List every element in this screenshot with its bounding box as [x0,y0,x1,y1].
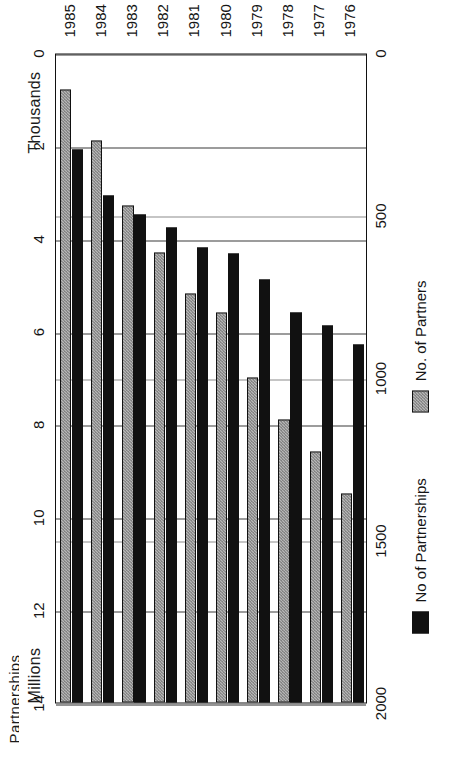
bar-partners-1982 [154,252,165,702]
bar-partners-1985 [60,89,71,702]
tick-top-12: 12 [30,588,47,632]
tick-top-6: 6 [30,310,47,354]
bar-partners-1977 [310,451,321,702]
gridline-bottom-2000 [56,704,366,705]
tick-top-2: 2 [30,124,47,168]
bars-layer [56,54,366,702]
chart-legend: No of Partnerships No. of Partners [412,280,429,633]
chart-page: Partnerships Millions Thousands 14121086… [0,0,470,761]
tick-bottom-500: 500 [372,194,389,238]
category-label-1985: 1985 [61,0,78,37]
legend-label-partnerships: No of Partnerships [412,478,429,602]
category-label-1981: 1981 [185,0,202,37]
bar-partners-1980 [216,312,227,702]
bar-partnerships-1979 [259,280,270,703]
chart-container: Partnerships Millions Thousands 14121086… [0,0,470,761]
legend-swatch-black-icon [412,611,429,633]
tick-top-4: 4 [30,217,47,261]
bar-partnerships-1983 [134,215,145,703]
plot-area [55,53,367,703]
category-label-1978: 1978 [279,0,296,37]
legend-label-partners: No. of Partners [412,280,429,381]
tick-bottom-1500: 1500 [372,519,389,563]
bar-partnerships-1976 [353,345,364,703]
tick-top-14: 14 [30,681,47,725]
category-label-1983: 1983 [123,0,140,37]
bar-partners-1978 [278,419,289,702]
tick-bottom-2000: 2000 [372,681,389,725]
bar-partnerships-1984 [103,195,114,702]
legend-swatch-gray-icon [412,390,429,412]
bar-partnerships-1981 [197,247,208,702]
chart-title: Partnerships [6,654,19,743]
bar-partnerships-1977 [322,325,333,702]
bar-partners-1983 [122,205,133,702]
bar-partners-1981 [185,293,196,702]
category-label-1984: 1984 [92,0,109,37]
tick-top-10: 10 [30,495,47,539]
tick-top-8: 8 [30,402,47,446]
tick-top-0: 0 [30,31,47,75]
category-label-1977: 1977 [310,0,327,37]
tick-bottom-1000: 1000 [372,356,389,400]
bar-partnerships-1978 [290,312,301,702]
rotated-chart-canvas: Partnerships Millions Thousands 14121086… [0,0,470,761]
bar-partners-1979 [247,377,258,702]
bar-partnerships-1980 [228,254,239,703]
category-label-1980: 1980 [217,0,234,37]
category-label-1982: 1982 [154,0,171,37]
legend-item-partnerships: No of Partnerships [412,478,429,633]
legend-item-partners: No. of Partners [412,280,429,412]
bar-partnerships-1985 [72,150,83,703]
category-label-1979: 1979 [248,0,265,37]
bar-partners-1984 [91,140,102,702]
category-label-1976: 1976 [341,0,358,37]
bar-partners-1976 [341,493,352,702]
tick-bottom-0: 0 [372,31,389,75]
bar-partnerships-1982 [166,228,177,703]
